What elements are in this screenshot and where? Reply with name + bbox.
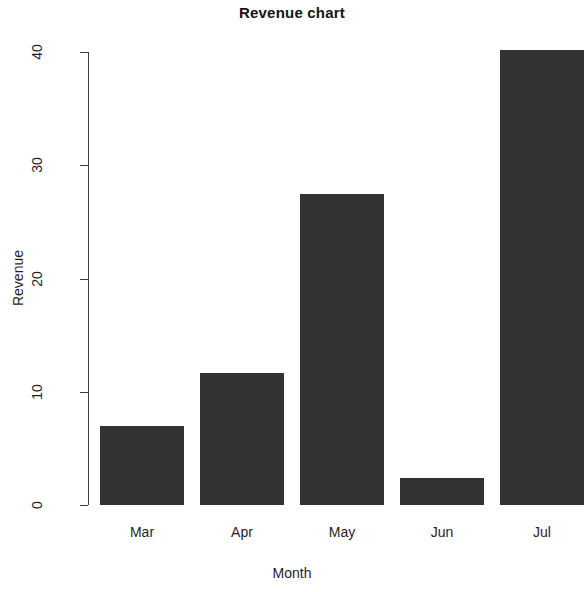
y-axis-tick — [80, 505, 88, 506]
y-axis-tick — [80, 52, 88, 53]
y-axis-title-label: Revenue — [10, 250, 26, 306]
y-axis-title: Revenue — [4, 0, 32, 592]
revenue-bar-chart: Revenue chart Revenue 010203040 MarAprMa… — [0, 0, 584, 592]
chart-title: Revenue chart — [0, 4, 584, 21]
x-axis-tick-label: Jun — [431, 524, 454, 540]
y-axis-tick-label: 10 — [29, 384, 45, 400]
bar — [400, 478, 484, 505]
y-axis-tick — [80, 392, 88, 393]
x-axis-tick-label: Apr — [231, 524, 253, 540]
y-axis-tick-label: 40 — [29, 44, 45, 60]
bar — [500, 50, 584, 505]
x-axis-tick-label: May — [329, 524, 355, 540]
x-axis-title: Month — [0, 565, 584, 581]
bar — [300, 194, 384, 505]
y-axis-tick — [80, 165, 88, 166]
bar — [100, 426, 184, 505]
y-axis-tick-label: 30 — [29, 157, 45, 173]
y-axis-tick-label: 0 — [29, 501, 45, 509]
y-axis-tick — [80, 279, 88, 280]
x-axis-tick-label: Mar — [130, 524, 154, 540]
x-axis-tick-label: Jul — [533, 524, 551, 540]
bars-layer — [88, 52, 580, 505]
y-axis-tick-label: 20 — [29, 271, 45, 287]
bar — [200, 373, 284, 506]
